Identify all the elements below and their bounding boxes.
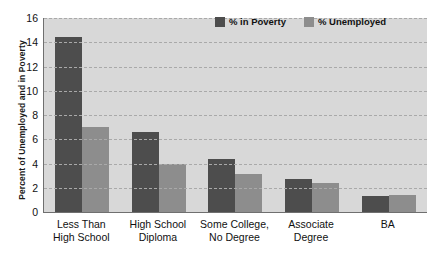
y-tick-label: 10 <box>26 85 38 97</box>
y-tick-label: 8 <box>32 109 38 121</box>
x-category-label-line: Diploma <box>120 231 197 244</box>
bar-unemployed[interactable] <box>235 174 262 212</box>
x-category-label: Some College,No Degree <box>196 218 273 244</box>
legend-item[interactable]: % Unemployed <box>304 16 386 27</box>
bar-poverty[interactable] <box>208 159 235 212</box>
gridline <box>44 91 427 92</box>
x-category-label: BA <box>349 218 426 244</box>
bar-poverty[interactable] <box>362 196 389 212</box>
legend-label: % in Poverty <box>229 16 286 27</box>
x-category-label: AssociateDegree <box>273 218 350 244</box>
x-category-label-line: Degree <box>273 231 350 244</box>
x-category-label-line: Associate <box>273 218 350 231</box>
y-tick-label: 16 <box>26 12 38 24</box>
bar-unemployed[interactable] <box>389 195 416 212</box>
legend-swatch-icon <box>304 17 314 27</box>
y-tick-label: 6 <box>32 133 38 145</box>
x-axis-line <box>43 212 427 213</box>
y-tick-label: 12 <box>26 61 38 73</box>
legend-label: % Unemployed <box>318 16 386 27</box>
x-category-label-line: BA <box>349 218 426 231</box>
gridline <box>44 115 427 116</box>
bar-chart: Percent of Unemployed and in Poverty 161… <box>0 0 443 280</box>
y-tick-label: 14 <box>26 36 38 48</box>
legend-item[interactable]: % in Poverty <box>215 16 286 27</box>
x-category-label-line: Some College, <box>196 218 273 231</box>
bar-poverty[interactable] <box>285 179 312 212</box>
x-category-label-line: High School <box>43 231 120 244</box>
x-category-label: High SchoolDiploma <box>120 218 197 244</box>
y-tick-label: 4 <box>32 158 38 170</box>
gridline <box>44 164 427 165</box>
plot-area <box>43 18 427 212</box>
y-axis-tick-labels: 1614121086420 <box>14 18 38 212</box>
bar-poverty[interactable] <box>132 132 159 212</box>
gridline <box>44 139 427 140</box>
bar-poverty[interactable] <box>55 37 82 212</box>
gridline <box>44 42 427 43</box>
y-tick-label: 0 <box>32 206 38 218</box>
x-axis-category-labels: Less ThanHigh SchoolHigh SchoolDiplomaSo… <box>43 218 426 244</box>
x-category-label-line: No Degree <box>196 231 273 244</box>
gridline <box>44 188 427 189</box>
legend-swatch-icon <box>215 17 225 27</box>
x-category-label-line: Less Than <box>43 218 120 231</box>
y-tick-label: 2 <box>32 182 38 194</box>
chart-legend: % in Poverty% Unemployed <box>215 16 386 27</box>
x-category-label: Less ThanHigh School <box>43 218 120 244</box>
gridline <box>44 67 427 68</box>
x-category-label-line: High School <box>120 218 197 231</box>
